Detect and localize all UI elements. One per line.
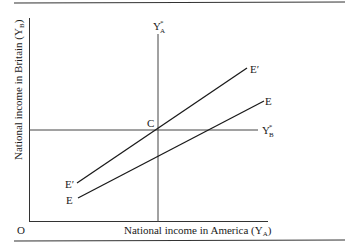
bottom-rule bbox=[14, 240, 345, 241]
e-prime-start-label: E′ bbox=[65, 178, 74, 190]
diagram-figure: National income in Britain (YB) National… bbox=[0, 0, 345, 250]
x-axis-label: National income in America (YA) bbox=[124, 224, 272, 238]
e-start-label: E bbox=[66, 194, 73, 206]
e-line bbox=[78, 101, 264, 198]
origin-label: O bbox=[17, 224, 25, 236]
yb-star-label: YB* bbox=[262, 123, 274, 139]
top-rule bbox=[14, 2, 345, 3]
intersection-c-label: C bbox=[147, 117, 154, 129]
y-axis-label: National income in Britain (YB) bbox=[12, 19, 26, 160]
e-prime-end-label: E′ bbox=[250, 63, 259, 75]
ya-star-label: YA* bbox=[153, 19, 165, 35]
e-end-label: E bbox=[265, 95, 272, 107]
e-prime-line bbox=[77, 68, 247, 183]
